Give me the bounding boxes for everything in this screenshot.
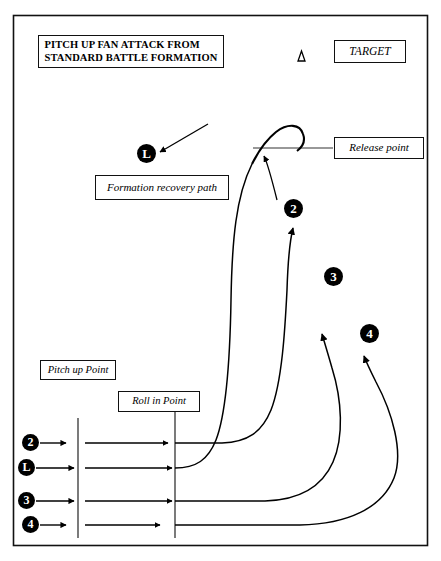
formation-recovery-path-label: Formation recovery path [95, 175, 229, 200]
marker-start-two: 2 [22, 434, 39, 451]
diagram-title: PITCH UP FAN ATTACK FROM STANDARD BATTLE… [38, 35, 224, 68]
target-triangle-icon [298, 51, 305, 61]
marker-apex-three: 3 [324, 267, 343, 286]
pitch-up-point-label: Pitch up Point [40, 360, 116, 380]
flight-path-three [265, 334, 340, 501]
marker-start-three: 3 [18, 492, 35, 509]
flight-path-four [300, 356, 398, 525]
target-label: TARGET [334, 40, 406, 63]
flight-path-leader [175, 164, 252, 468]
diagram-canvas [0, 0, 441, 561]
release-point-label: Release point [334, 137, 424, 159]
outer-border [14, 16, 428, 546]
marker-start-four: 4 [22, 516, 39, 533]
recovery-path-pointer [160, 124, 208, 152]
title-line-2: STANDARD BATTLE FORMATION [45, 52, 218, 65]
marker-apex-two: 2 [284, 199, 303, 218]
title-line-1: PITCH UP FAN ATTACK FROM [45, 39, 218, 52]
marker-apex-four: 4 [360, 324, 379, 343]
flight-path-apex-arc [252, 126, 304, 164]
roll-in-point-label: Roll in Point [118, 391, 200, 412]
release-point-pointer [264, 156, 277, 200]
marker-recovery-leader: L [137, 144, 156, 163]
marker-start-leader: L [18, 459, 35, 476]
pitch-up-fan-attack-diagram: PITCH UP FAN ATTACK FROM STANDARD BATTLE… [0, 0, 441, 561]
